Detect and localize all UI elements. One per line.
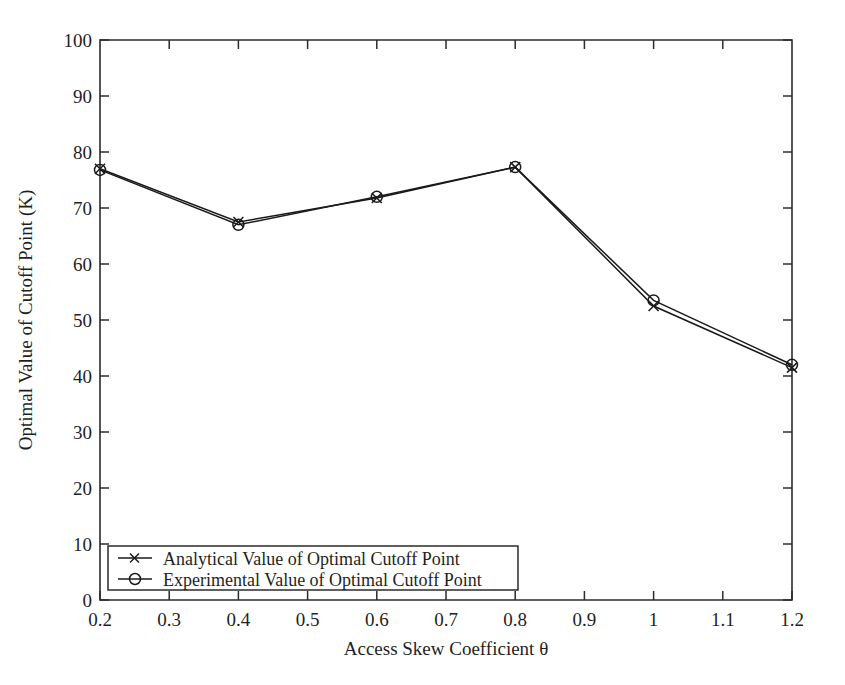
legend-entry-analytical[interactable]: Analytical Value of Optimal Cutoff Point [118,549,460,569]
y-tick-label: 50 [73,310,92,331]
legend-label-analytical: Analytical Value of Optimal Cutoff Point [163,549,460,569]
legend-label-experimental: Experimental Value of Optimal Cutoff Poi… [163,570,482,590]
y-axis-title: Optimal Value of Cutoff Point (K) [15,190,37,451]
y-tick-label: 0 [83,590,93,611]
y-tick-label: 60 [73,254,92,275]
y-axis-ticks [100,40,792,600]
chart-legend: Analytical Value of Optimal Cutoff Point… [108,546,518,590]
series-experimental [95,162,798,371]
x-axis-title: Access Skew Coefficient θ [344,638,549,659]
y-tick-label: 10 [73,534,92,555]
x-tick-label: 0.8 [503,609,527,630]
x-axis-ticks [100,40,792,600]
x-tick-label: 0.5 [296,609,320,630]
y-tick-label: 80 [73,142,92,163]
chart-figure: 0 10 20 30 40 50 60 70 80 90 100 0.2 0.3… [0,0,845,685]
x-tick-label: 0.7 [434,609,458,630]
legend-entry-experimental[interactable]: Experimental Value of Optimal Cutoff Poi… [118,570,482,590]
series-analytical [95,162,797,372]
series-analytical-line [100,167,792,367]
x-tick-label: 1.2 [780,609,804,630]
y-tick-label: 30 [73,422,92,443]
x-tick-label: 0.3 [157,609,181,630]
y-axis-tick-labels: 0 10 20 30 40 50 60 70 80 90 100 [64,30,93,611]
y-tick-label: 20 [73,478,92,499]
x-tick-label: 0.4 [227,609,251,630]
x-tick-label: 0.9 [573,609,597,630]
plot-frame [100,40,792,600]
y-tick-label: 70 [73,198,92,219]
series-analytical-markers [95,162,797,372]
x-tick-label: 0.6 [365,609,389,630]
x-tick-label: 1 [649,609,659,630]
y-tick-label: 40 [73,366,92,387]
line-chart-plot: 0 10 20 30 40 50 60 70 80 90 100 0.2 0.3… [0,0,845,685]
x-axis-tick-labels: 0.2 0.3 0.4 0.5 0.6 0.7 0.8 0.9 1 1.1 1.… [88,609,804,630]
series-experimental-line [100,167,792,365]
series-experimental-markers [95,162,798,371]
x-tick-label: 1.1 [711,609,735,630]
y-tick-label: 100 [64,30,93,51]
y-tick-label: 90 [73,86,92,107]
x-tick-label: 0.2 [88,609,112,630]
